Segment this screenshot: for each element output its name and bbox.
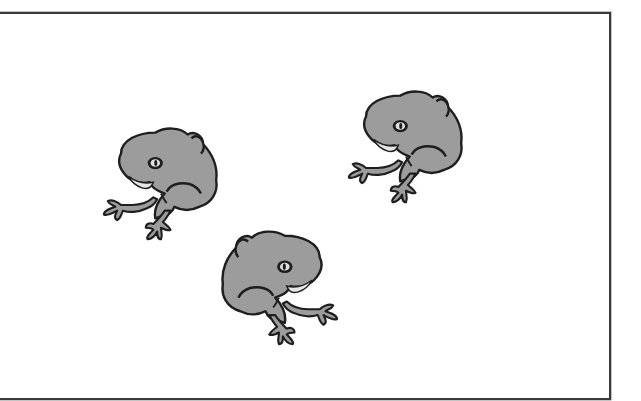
frog-right [343, 88, 469, 206]
frog-bottom [215, 228, 343, 348]
frog-icon [215, 228, 343, 348]
frog-icon [343, 88, 469, 206]
frog-left [97, 125, 225, 243]
frog-icon [97, 125, 225, 243]
